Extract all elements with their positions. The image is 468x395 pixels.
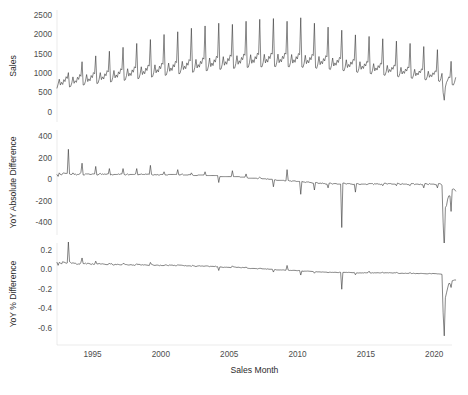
y-tick-label: -400 bbox=[36, 218, 53, 227]
y-tick-label: 2000 bbox=[34, 30, 53, 39]
y-tick-label: 500 bbox=[38, 88, 52, 97]
x-axis-title: Sales Month bbox=[231, 365, 279, 375]
panel-background bbox=[57, 130, 452, 235]
y-tick-label: -200 bbox=[36, 197, 53, 206]
y-tick-label: 2500 bbox=[34, 11, 53, 20]
y-tick-label: -0.6 bbox=[38, 324, 53, 333]
x-tick-label: 2005 bbox=[220, 350, 239, 359]
multi-panel-line-chart: 05001000150020002500Sales-400-2000200400… bbox=[0, 0, 468, 395]
panel-background bbox=[57, 243, 452, 345]
x-tick-label: 2010 bbox=[288, 350, 307, 359]
y-axis-title: YoY % Difference bbox=[8, 260, 18, 327]
x-tick-label: 2015 bbox=[357, 350, 376, 359]
y-axis-title: YoY Absolute Difference bbox=[8, 136, 18, 228]
panel-background bbox=[57, 10, 452, 122]
y-tick-label: 0.2 bbox=[41, 246, 53, 255]
y-tick-label: 400 bbox=[38, 132, 52, 141]
x-tick-label: 2000 bbox=[152, 350, 171, 359]
x-tick-label: 2020 bbox=[425, 350, 444, 359]
y-tick-label: 1000 bbox=[34, 69, 53, 78]
y-tick-label: 200 bbox=[38, 154, 52, 163]
y-tick-label: 0 bbox=[47, 175, 52, 184]
x-tick-label: 1995 bbox=[83, 350, 102, 359]
y-tick-label: 0 bbox=[47, 108, 52, 117]
panel-sales: 05001000150020002500Sales bbox=[8, 10, 456, 122]
panel-yoy_absolute_difference: -400-2000200400YoY Absolute Difference bbox=[8, 130, 456, 249]
y-axis-title: Sales bbox=[8, 55, 18, 77]
y-tick-label: -0.2 bbox=[38, 285, 53, 294]
y-tick-label: 0.0 bbox=[41, 265, 53, 274]
panels-group: 05001000150020002500Sales-400-2000200400… bbox=[8, 10, 456, 345]
y-tick-label: -0.4 bbox=[38, 304, 53, 313]
panel-yoy_percent_difference: -0.6-0.4-0.20.00.2YoY % Difference bbox=[8, 242, 456, 345]
y-tick-label: 1500 bbox=[34, 50, 53, 59]
figure-root: 05001000150020002500Sales-400-2000200400… bbox=[0, 0, 468, 395]
